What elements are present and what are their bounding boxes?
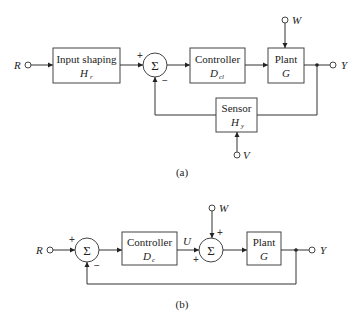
sigma-icon: Σ xyxy=(207,243,215,258)
output-y-terminal xyxy=(309,247,315,253)
plus-sign: + xyxy=(193,254,199,265)
caption-a: (a) xyxy=(176,166,189,179)
arrow-icon xyxy=(283,43,288,48)
disturbance-w-terminal xyxy=(282,17,288,23)
arrow-icon xyxy=(85,262,90,267)
plus-sign: + xyxy=(217,227,223,238)
noise-v-terminal xyxy=(234,152,240,158)
plant-name: Plant xyxy=(275,53,298,65)
input-r-label: R xyxy=(13,59,21,71)
arrow-icon xyxy=(210,233,215,238)
controller-name: Controller xyxy=(195,53,241,65)
sensor-name: Sensor xyxy=(222,102,252,114)
diagram-b: R Σ + − Controller D c U Σ + + W P xyxy=(35,202,328,311)
controller-symbol: D xyxy=(209,67,218,79)
plant-name: Plant xyxy=(253,236,276,248)
disturbance-w-label: W xyxy=(219,202,229,214)
controller-sub: cl xyxy=(219,73,224,81)
input-shaping-name: Input shaping xyxy=(56,53,117,65)
arrow-icon xyxy=(185,63,190,68)
output-y-label: Y xyxy=(320,244,328,256)
arrow-icon xyxy=(242,248,247,253)
noise-v-label: V xyxy=(243,149,251,161)
input-r-terminal xyxy=(25,62,31,68)
output-y-label: Y xyxy=(341,59,349,71)
sigma-icon: Σ xyxy=(83,243,91,258)
plus-sign: + xyxy=(137,50,143,61)
input-r-terminal xyxy=(47,247,53,253)
controller-name: Controller xyxy=(127,236,173,248)
sigma-icon: Σ xyxy=(151,58,159,73)
output-y-terminal xyxy=(330,62,336,68)
arrow-icon xyxy=(48,63,53,68)
input-shaping-symbol: H xyxy=(79,67,89,79)
minus-sign: − xyxy=(162,75,168,86)
arrow-icon xyxy=(263,63,268,68)
block-diagrams: R Input shaping H r Σ + − Controller D c… xyxy=(0,0,364,320)
sensor-symbol: H xyxy=(230,116,240,128)
arrow-icon xyxy=(235,132,240,137)
disturbance-w-label: W xyxy=(292,14,302,26)
minus-sign: − xyxy=(94,260,100,271)
arrow-icon xyxy=(117,248,122,253)
control-u-label: U xyxy=(183,235,192,247)
arrow-icon xyxy=(194,248,199,253)
caption-b: (b) xyxy=(176,298,189,311)
input-r-label: R xyxy=(35,244,43,256)
plus-sign: + xyxy=(69,234,75,245)
plant-symbol: G xyxy=(260,250,268,262)
disturbance-w-terminal xyxy=(209,205,215,211)
input-shaping-sub: r xyxy=(90,73,93,81)
plant-symbol: G xyxy=(282,67,290,79)
diagram-a: R Input shaping H r Σ + − Controller D c… xyxy=(13,14,349,179)
arrow-icon xyxy=(153,77,158,82)
arrow-icon xyxy=(70,248,75,253)
arrow-icon xyxy=(138,63,143,68)
controller-symbol: D xyxy=(142,250,151,262)
